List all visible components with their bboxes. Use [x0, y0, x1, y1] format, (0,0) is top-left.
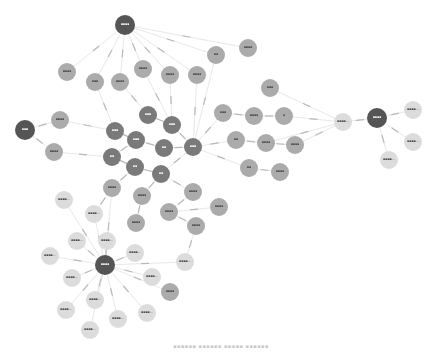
graph-node-leaf[interactable]: ▪▪▪▪… [143, 268, 161, 286]
graph-node-mid[interactable]: ▪▪▪▪ [133, 187, 151, 205]
graph-node-mid[interactable]: ▪▪▪▪ [103, 179, 121, 197]
graph-node-core[interactable]: ▪▪ [126, 158, 144, 176]
graph-caption: ▪▪▪▪▪▪ ▪▪▪▪▪▪ ▪▪▪▪▪ ▪▪▪▪▪▪ [0, 343, 442, 349]
graph-node-mid[interactable]: ▪▪▪▪ [245, 107, 263, 125]
graph-node-mid[interactable]: ▪▪▪▪ [127, 214, 145, 232]
node-label: ▪▪▪▪ [193, 73, 202, 77]
node-label: ▪▪▪▪ [139, 67, 148, 71]
node-label: ▪▪ [214, 53, 218, 57]
node-label: ▪▪▪▪ [108, 186, 117, 190]
edge-label [141, 263, 149, 264]
edge-label [179, 217, 187, 222]
edge-label [205, 127, 211, 134]
graph-node-leaf[interactable]: ▪▪▪▪… [85, 205, 103, 223]
edge-label [155, 93, 160, 101]
graph-node-mid[interactable]: ▪▪▪▪ [111, 73, 129, 91]
graph-node-mid[interactable]: ▪▪ [227, 131, 245, 149]
graph-node-mid[interactable]: ▪▪▪▪ [45, 143, 63, 161]
node-label: ▪▪▪▪… [141, 311, 153, 315]
node-label: ▪▪ [159, 172, 163, 176]
edge-label [303, 103, 311, 107]
graph-node-leaf[interactable]: ▪▪▪▪… [334, 113, 352, 131]
graph-node-leaf[interactable]: ▪▪▪▪… [380, 151, 398, 169]
graph-node-core[interactable]: ▪▪ [155, 139, 173, 157]
graph-node-core[interactable]: ▪▪▪ [184, 138, 202, 156]
node-label: ▪▪▪ [267, 86, 273, 90]
edge-label [190, 209, 198, 211]
edge-label [194, 107, 196, 115]
node-label: ▪▪▪▪ [121, 23, 130, 27]
node-label: ▪▪▪▪… [383, 158, 395, 162]
node-label: ▪▪▪ [190, 145, 196, 149]
graph-node-core[interactable]: ▪▪ [103, 148, 121, 166]
graph-node-leaf[interactable]: ▪▪▪▪… [81, 321, 99, 339]
graph-node-mid[interactable]: ▪▪▪▪ [239, 39, 257, 57]
edge-label [144, 47, 150, 54]
edge-label [120, 174, 127, 180]
graph-node-mid[interactable]: ▪▪▪ [86, 73, 104, 91]
node-label: ▪▪▪▪ [116, 80, 125, 84]
edge-label [131, 95, 137, 102]
graph-node-mid[interactable]: ▪▪▪▪ [187, 217, 205, 235]
graph-node-mid[interactable]: ▪▪▪▪ [188, 66, 206, 84]
graph-node-core[interactable]: ▪▪▪ [163, 116, 181, 134]
edge-label [234, 114, 242, 116]
node-label: ▪▪▪▪ [50, 150, 59, 154]
graph-node-leaf[interactable]: ▪▪▪▪… [63, 269, 81, 287]
node-label: ▪▪▪▪… [101, 239, 113, 243]
graph-node-mid[interactable]: ▪▪▪▪ [161, 283, 179, 301]
graph-node-mid[interactable]: ▪▪▪▪ [271, 163, 289, 181]
graph-node-leaf[interactable]: ▪▪▪▪… [126, 244, 144, 262]
graph-node-leaf[interactable]: ▪▪▪▪… [86, 291, 104, 309]
knowledge-graph-canvas[interactable]: ▪▪▪▪▪▪▪▪▪▪▪▪▪▪▪▪▪▪▪▪▪▪▪▪▪▪▪▪▪▪▪▪▪▪▪▪▪▪▪▪… [0, 0, 442, 340]
graph-node-leaf[interactable]: ▪▪▪▪… [176, 253, 194, 271]
edge-label [148, 182, 154, 189]
graph-node-mid[interactable]: ▪▪ [207, 46, 225, 64]
node-label: ▪ [283, 114, 285, 118]
graph-node-mid[interactable]: ▪▪▪▪ [134, 60, 152, 78]
graph-node-mid[interactable]: ▪▪▪▪ [286, 136, 304, 154]
graph-node-core[interactable]: ▪▪▪ [127, 131, 145, 149]
edge-label [122, 49, 124, 57]
node-label: ▪▪▪▪… [129, 251, 141, 255]
graph-node-mid[interactable]: ▪▪▪▪ [184, 183, 202, 201]
graph-node-mid[interactable]: ▪▪▪▪ [161, 66, 179, 84]
graph-node-core[interactable]: ▪▪▪ [139, 106, 157, 124]
graph-node-hub[interactable]: ▪▪▪▪ [95, 255, 115, 275]
node-label: ▪▪▪ [92, 80, 98, 84]
graph-node-leaf[interactable]: ▪▪▪▪… [138, 304, 156, 322]
graph-node-mid[interactable]: ▪▪▪▪ [210, 198, 228, 216]
graph-node-mid[interactable]: ▪▪▪▪ [58, 63, 76, 81]
graph-node-hub[interactable]: ▪▪▪▪ [367, 108, 387, 128]
node-label: ▪▪▪▪ [276, 170, 285, 174]
edge-label [178, 199, 185, 205]
edge-label [100, 197, 106, 204]
node-label: ▪▪▪▪… [84, 328, 96, 332]
graph-node-leaf[interactable]: ▪▪▪▪… [98, 232, 116, 250]
node-label: ▪▪▪▪ [373, 116, 382, 120]
graph-node-leaf[interactable]: ▪▪▪▪… [41, 247, 59, 265]
edge-label [120, 146, 127, 152]
graph-node-mid[interactable]: ▪▪▪▪ [257, 134, 275, 152]
graph-node-leaf[interactable]: ▪▪▪▪… [57, 301, 75, 319]
edge-label [108, 222, 110, 230]
edge-label [381, 135, 384, 143]
graph-node-core[interactable]: ▪▪▪ [106, 122, 124, 140]
graph-node-leaf[interactable]: ▪▪▪▪… [404, 133, 422, 151]
graph-node-core[interactable]: ▪▪ [152, 165, 170, 183]
node-label: ▪▪ [110, 155, 114, 159]
graph-node-mid[interactable]: ▪▪▪▪ [51, 111, 69, 129]
graph-node-hub[interactable]: ▪▪▪▪ [115, 15, 135, 35]
graph-node-mid[interactable]: ▪▪▪ [214, 104, 232, 122]
edge-label [167, 38, 175, 42]
graph-node-hub[interactable]: ▪▪▪ [15, 120, 35, 140]
graph-node-mid[interactable]: ▪▪▪ [261, 79, 279, 97]
graph-node-leaf[interactable]: ▪▪▪▪… [404, 101, 422, 119]
graph-node-mid[interactable]: ▪▪ [240, 159, 258, 177]
graph-node-leaf[interactable]: ▪▪▪▪… [68, 232, 86, 250]
graph-node-mid[interactable]: ▪ [275, 107, 293, 125]
graph-node-leaf[interactable]: ▪▪▪▪… [109, 310, 127, 328]
graph-node-leaf[interactable]: ▪▪▪▪… [55, 191, 73, 209]
graph-node-mid[interactable]: ▪▪▪▪ [160, 203, 178, 221]
node-label: ▪▪ [162, 146, 166, 150]
